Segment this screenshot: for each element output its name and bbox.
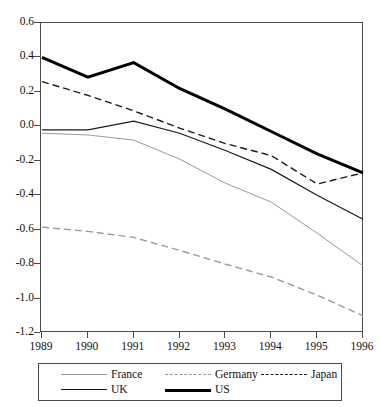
series-line-germany <box>42 227 363 316</box>
x-axis-tick-label: 1993 <box>201 340 247 352</box>
y-axis-tick-label: 0.0 <box>0 119 34 130</box>
series-lines <box>41 23 364 333</box>
y-axis-tick <box>34 56 40 57</box>
x-axis-tick-label: 1991 <box>110 340 156 352</box>
x-axis-tick-label: 1990 <box>64 340 110 352</box>
x-axis-tick <box>133 332 134 338</box>
x-axis-tick <box>224 332 225 338</box>
plot-area <box>40 22 363 332</box>
legend-swatch-japan <box>261 374 307 375</box>
legend-label-germany: Germany <box>215 367 258 382</box>
x-axis-tick <box>179 332 180 338</box>
y-axis-tick <box>34 160 40 161</box>
y-axis-tick-label: 0.4 <box>0 50 34 61</box>
y-axis-tick <box>34 194 40 195</box>
y-axis-tick-label: -0.6 <box>0 223 34 234</box>
chart-screenshot: · · · FranceGermanyJapanUKUS 0.60.40.20.… <box>0 0 380 407</box>
series-line-us <box>42 57 363 172</box>
y-axis-tick-label: 0.6 <box>0 16 34 27</box>
y-axis-tick <box>34 125 40 126</box>
y-axis-tick <box>34 298 40 299</box>
cropped-title: · · · <box>0 0 380 4</box>
legend-label-uk: UK <box>111 382 128 397</box>
y-axis-tick <box>34 229 40 230</box>
x-axis-tick-label: 1995 <box>293 340 339 352</box>
y-axis-tick <box>34 263 40 264</box>
series-line-japan <box>42 82 363 184</box>
x-axis-tick <box>362 332 363 338</box>
y-axis-tick <box>34 91 40 92</box>
x-axis-tick-label: 1992 <box>156 340 202 352</box>
x-axis-tick <box>87 332 88 338</box>
y-axis-tick-label: -0.2 <box>0 154 34 165</box>
legend-label-france: France <box>111 367 142 382</box>
legend-label-us: US <box>215 382 230 397</box>
y-axis-tick-label: -1.2 <box>0 326 34 337</box>
x-axis-tick-label: 1989 <box>18 340 64 352</box>
legend-swatch-us <box>165 389 211 392</box>
x-axis-tick-label: 1994 <box>247 340 293 352</box>
chart-legend: FranceGermanyJapanUKUS <box>38 363 342 401</box>
legend-label-japan: Japan <box>311 367 337 382</box>
y-axis-tick-label: -0.8 <box>0 257 34 268</box>
y-axis-tick <box>34 332 40 333</box>
y-axis-tick-label: 0.2 <box>0 85 34 96</box>
legend-swatch-germany <box>165 374 211 375</box>
legend-swatch-france <box>61 374 107 375</box>
y-axis-tick-label: -0.4 <box>0 188 34 199</box>
y-axis-tick-label: -1.0 <box>0 292 34 303</box>
y-axis-tick <box>34 22 40 23</box>
x-axis-tick <box>270 332 271 338</box>
x-axis-tick <box>316 332 317 338</box>
x-axis-tick <box>41 332 42 338</box>
x-axis-tick-label: 1996 <box>339 340 380 352</box>
legend-swatch-uk <box>61 389 107 390</box>
